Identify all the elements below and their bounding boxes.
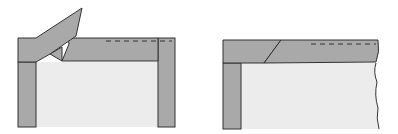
panel-left [36, 62, 158, 127]
rail-right-section [264, 40, 379, 63]
left-post [18, 62, 36, 127]
panel-right [241, 63, 379, 129]
left-post-right [223, 63, 241, 129]
right-post [158, 38, 175, 127]
diagram-canvas [0, 0, 398, 134]
frame-joint-diagram [0, 0, 398, 134]
figure-left [18, 8, 175, 127]
figure-right [223, 40, 379, 129]
